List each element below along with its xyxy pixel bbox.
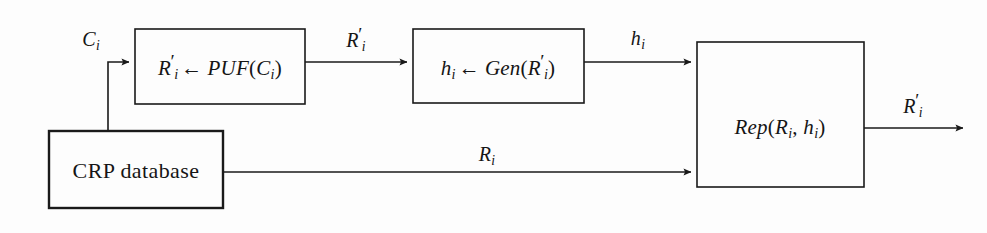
edge-label-puf-to-gen: R′i — [346, 26, 365, 54]
edge-label-gen-to-rep: hi — [631, 28, 645, 51]
rep-box-label: Rep(Ri, hi) — [734, 115, 825, 140]
puf-box-label: R′i←PUF(Ci) — [158, 52, 282, 81]
crp-database-label: CRP database — [73, 158, 200, 184]
edge-crp-to-puf-line — [108, 62, 129, 131]
edge-label-rep-output: R′i — [903, 92, 922, 120]
gen-box-label: hi←Gen(R′i) — [441, 52, 556, 81]
edge-label-crp-to-rep: Ri — [479, 144, 496, 167]
edge-label-crp-to-puf: Ci — [82, 29, 100, 52]
puf-authentication-diagram: R′i←PUF(Ci) hi←Gen(R′i) Rep(Ri, hi) CRP … — [0, 0, 987, 233]
diagram-canvas — [0, 0, 987, 233]
